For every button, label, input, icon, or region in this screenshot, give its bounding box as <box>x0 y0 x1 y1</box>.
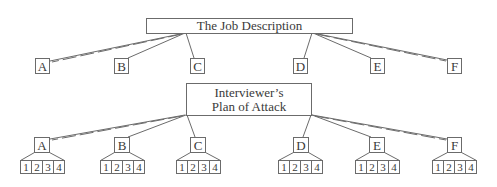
bottom-node-a-sub-3: 3 <box>45 161 51 173</box>
bottom-node-b-sub-1: 1 <box>103 161 109 173</box>
connector-c <box>186 33 194 58</box>
connector-f <box>312 115 447 139</box>
bottom-node-e: E 1 2 3 4 <box>356 138 400 174</box>
bottom-node-d-fan <box>279 153 323 161</box>
top-connectors <box>50 33 447 62</box>
bottom-node-a-sub-2: 2 <box>34 161 40 173</box>
bottom-tree: Interviewer’s Plan of Attack A 1 2 3 4 B… <box>21 84 477 174</box>
connector-d <box>303 115 311 137</box>
bottom-node-b-sub-2: 2 <box>114 161 120 173</box>
top-node-f: F <box>448 59 462 74</box>
bottom-node-b-label: B <box>118 138 127 153</box>
bottom-node-c-fan <box>177 153 221 161</box>
bottom-node-f-fan <box>433 153 477 161</box>
bottom-node-b-fan <box>101 153 145 161</box>
connector-f <box>313 33 447 60</box>
top-node-c: C <box>191 59 205 74</box>
bottom-node-b-sub-4: 4 <box>136 161 142 173</box>
bottom-node-a-sub-1: 1 <box>23 161 29 173</box>
bottom-connectors <box>50 115 447 140</box>
bottom-node-c-sub-4: 4 <box>212 161 218 173</box>
bottom-node-b: B 1 2 3 4 <box>101 138 145 174</box>
bottom-node-d-sub-3: 3 <box>303 161 309 173</box>
top-node-e-label: E <box>374 59 382 74</box>
bottom-node-e-fan <box>356 153 400 161</box>
connector-f-dash <box>315 116 446 140</box>
plan-of-attack-box: Interviewer’s Plan of Attack <box>187 84 312 116</box>
top-node-a: A <box>36 59 50 74</box>
bottom-node-d-label: D <box>296 138 305 153</box>
bottom-node-d: D 1 2 3 4 <box>279 138 323 174</box>
top-node-d: D <box>294 59 308 74</box>
connector-c <box>187 115 195 137</box>
bottom-node-e-sub-2: 2 <box>369 161 375 173</box>
connector-b <box>128 33 185 58</box>
plan-of-attack-title-line1: Interviewer’s <box>214 85 283 100</box>
plan-of-attack-title-line2: Plan of Attack <box>212 99 287 114</box>
bottom-node-a: A 1 2 3 4 <box>21 138 65 174</box>
bottom-node-e-sub-3: 3 <box>380 161 386 173</box>
connector-f-dash <box>316 34 446 61</box>
bottom-node-f-label: F <box>451 138 458 153</box>
top-node-f-label: F <box>451 59 458 74</box>
bottom-node-f-sub-4: 4 <box>468 161 474 173</box>
top-node-e: E <box>371 59 385 74</box>
bottom-node-f-sub-1: 1 <box>435 161 441 173</box>
bottom-node-f: F 1 2 3 4 <box>433 138 477 174</box>
top-node-a-label: A <box>38 59 48 74</box>
connector-a <box>50 33 185 61</box>
bottom-node-e-sub-1: 1 <box>358 161 364 173</box>
connector-a <box>50 115 185 139</box>
connector-a-dash <box>52 116 182 140</box>
bottom-node-d-sub-2: 2 <box>292 161 298 173</box>
top-tree: The Job Description A B C D E F <box>36 18 462 74</box>
bottom-node-e-sub-4: 4 <box>391 161 397 173</box>
connector-d <box>304 33 312 58</box>
top-node-b: B <box>115 59 129 74</box>
bottom-node-c-sub-2: 2 <box>190 161 196 173</box>
job-description-box: The Job Description <box>147 18 353 34</box>
top-node-d-label: D <box>296 59 305 74</box>
bottom-node-f-sub-3: 3 <box>457 161 463 173</box>
bottom-node-c: C 1 2 3 4 <box>177 138 221 174</box>
bottom-node-f-sub-2: 2 <box>446 161 452 173</box>
job-description-tree-diagram: The Job Description A B C D E F <box>0 0 497 187</box>
bottom-node-d-sub-1: 1 <box>281 161 287 173</box>
bottom-node-c-sub-3: 3 <box>201 161 207 173</box>
bottom-node-a-fan <box>21 153 65 161</box>
bottom-node-a-sub-4: 4 <box>56 161 62 173</box>
job-description-title: The Job Description <box>197 18 303 33</box>
bottom-node-b-sub-3: 3 <box>125 161 131 173</box>
bottom-node-a-label: A <box>37 138 47 153</box>
connector-b <box>128 115 186 137</box>
bottom-node-e-label: E <box>373 138 381 153</box>
top-node-b-label: B <box>117 59 126 74</box>
connector-e <box>312 115 371 137</box>
bottom-node-c-label: C <box>194 138 203 153</box>
bottom-node-c-sub-1: 1 <box>179 161 185 173</box>
top-node-c-label: C <box>193 59 202 74</box>
bottom-node-d-sub-4: 4 <box>314 161 320 173</box>
connector-e <box>313 33 371 58</box>
